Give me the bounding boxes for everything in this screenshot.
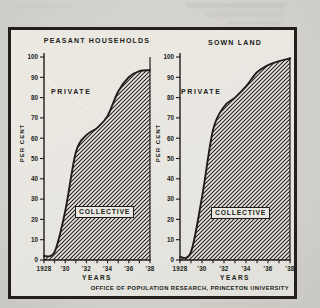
x-tick-label: '38	[145, 265, 154, 272]
y-tick-label: 50	[31, 155, 39, 162]
x-tick-label: '34	[241, 265, 250, 272]
scan-bleedthrough-artifact	[205, 12, 285, 17]
scan-bleedthrough-artifact	[186, 3, 286, 8]
y-tick-label: 60	[167, 135, 175, 142]
y-tick-label: 0	[170, 256, 174, 263]
y-tick-label: 30	[31, 195, 39, 202]
y-tick-label: 90	[167, 74, 175, 81]
chart-title-sown-land: SOWN LAND	[170, 39, 300, 46]
private-region-label-left: PRIVATE	[51, 88, 92, 95]
y-axis-label-right: PER CENT	[153, 120, 163, 166]
y-tick-label: 20	[31, 216, 39, 223]
y-tick-label: 70	[31, 114, 39, 121]
scan-bleedthrough-artifact	[200, 302, 280, 306]
y-tick-label: 100	[163, 53, 174, 60]
y-tick-label: 10	[31, 236, 39, 243]
x-tick-label: '36	[124, 265, 133, 272]
scan-bleedthrough-artifact	[226, 21, 284, 25]
x-tick-label: 1928	[37, 265, 52, 272]
x-tick-label: '38	[285, 265, 294, 272]
x-tick-label: '32	[82, 265, 91, 272]
y-tick-label: 50	[167, 155, 175, 162]
y-tick-label: 70	[167, 114, 175, 121]
y-tick-label: 10	[167, 236, 175, 243]
y-tick-label: 60	[31, 135, 39, 142]
y-tick-label: 80	[167, 94, 175, 101]
y-tick-label: 40	[167, 175, 175, 182]
x-tick-label: '30	[61, 265, 70, 272]
y-tick-label: 30	[167, 195, 175, 202]
x-tick-label: 1928	[173, 265, 188, 272]
x-tick-label: '30	[197, 265, 206, 272]
x-axis-label-left: YEARS	[57, 274, 137, 281]
collective-region-label-right: COLLECTIVE	[211, 207, 270, 219]
figure-frame: 01020304050607080901001928'30'32'34'36'3…	[8, 27, 297, 299]
y-tick-label: 90	[31, 74, 39, 81]
x-tick-label: '34	[103, 265, 112, 272]
collective-region-label-left: COLLECTIVE	[75, 206, 134, 218]
scanned-page: { "page": { "type": "scanned-book-figure…	[0, 0, 305, 308]
credit-line: OFFICE OF POPULATION RESEARCH, PRINCETON…	[91, 285, 289, 291]
x-tick-label: '36	[263, 265, 272, 272]
chart-title-peasant-households: PEASANT HOUSEHOLDS	[32, 37, 162, 44]
private-region-label-right: PRIVATE	[181, 88, 222, 95]
y-tick-label: 20	[167, 216, 175, 223]
y-tick-label: 0	[34, 256, 38, 263]
x-axis-label-right: YEARS	[195, 274, 275, 281]
y-tick-label: 80	[31, 94, 39, 101]
y-tick-label: 40	[31, 175, 39, 182]
scan-bleedthrough-artifact	[18, 3, 73, 8]
y-tick-label: 100	[27, 53, 38, 60]
x-tick-label: '32	[219, 265, 228, 272]
y-axis-label-left: PER CENT	[17, 120, 27, 166]
